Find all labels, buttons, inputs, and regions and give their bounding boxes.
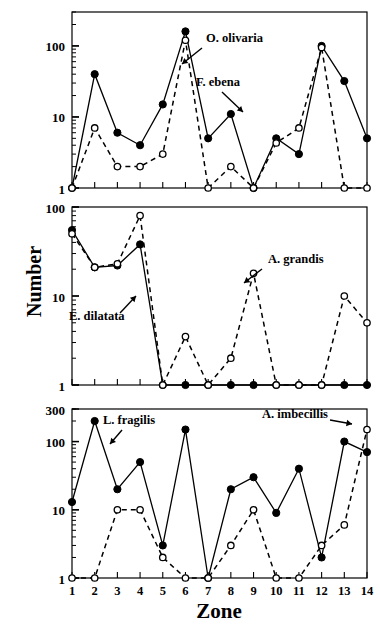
x-tick-label: 7 [205, 584, 211, 598]
series-annotation-label: L. fragilis [103, 413, 155, 427]
data-point-filled [250, 381, 257, 388]
data-point-open [228, 542, 234, 548]
data-point-open [137, 163, 143, 169]
y-tick-label: 100 [46, 201, 66, 216]
y-tick-label: 100 [46, 39, 66, 54]
data-point-filled [114, 129, 121, 136]
data-point-filled [227, 381, 234, 388]
data-point-open [296, 382, 302, 388]
x-tick-label: 1 [69, 584, 75, 598]
x-tick-label: 12 [315, 584, 328, 598]
data-point-filled [136, 241, 143, 248]
x-tick-label: 2 [92, 584, 98, 598]
x-tick-label: 6 [182, 584, 188, 598]
data-point-filled [205, 135, 212, 142]
series-line-a--grandis [72, 216, 367, 385]
data-point-open [137, 507, 143, 513]
data-point-open [228, 355, 234, 361]
data-point-open [364, 320, 370, 326]
x-tick-label: 5 [160, 584, 166, 598]
series-annotation-label: A. imbecillis [262, 407, 328, 421]
data-point-filled [295, 151, 302, 158]
data-point-open [273, 575, 279, 581]
data-point-open [273, 382, 279, 388]
data-point-open [137, 212, 143, 218]
x-tick-label: 13 [338, 584, 351, 598]
data-point-filled [68, 498, 75, 505]
data-point-filled [295, 465, 302, 472]
x-tick-label: 3 [114, 584, 120, 598]
data-point-filled [91, 417, 98, 424]
data-point-filled [363, 381, 370, 388]
data-point-filled [363, 135, 370, 142]
data-point-open [318, 542, 324, 548]
data-point-open [182, 333, 188, 339]
data-point-filled [363, 449, 370, 456]
data-point-open [364, 185, 370, 191]
x-tick-label: 10 [270, 584, 283, 598]
data-point-open [296, 575, 302, 581]
annotation-arrow-head [346, 420, 352, 426]
data-point-filled [136, 458, 143, 465]
data-point-open [318, 44, 324, 50]
y-axis-title: Number [23, 227, 46, 337]
series-annotation-label: A. grandis [268, 252, 324, 266]
data-point-filled [182, 381, 189, 388]
data-point-filled [159, 542, 166, 549]
data-point-filled [273, 509, 280, 516]
x-tick-label: 9 [250, 584, 256, 598]
data-point-open [114, 163, 120, 169]
data-point-open [364, 426, 370, 432]
data-point-open [205, 382, 211, 388]
data-point-open [182, 575, 188, 581]
data-point-open [205, 185, 211, 191]
x-axis-title: Zone [196, 599, 242, 623]
data-point-open [341, 522, 347, 528]
data-point-open [160, 151, 166, 157]
data-point-open [69, 231, 75, 237]
y-tick-label: 10 [52, 503, 65, 518]
data-point-open [341, 185, 347, 191]
data-point-open [114, 507, 120, 513]
y-tick-label: 10 [52, 290, 65, 305]
data-point-filled [227, 486, 234, 493]
data-point-open [91, 125, 97, 131]
data-point-filled [91, 71, 98, 78]
data-point-filled [114, 486, 121, 493]
data-point-filled [136, 142, 143, 149]
x-tick-label: 8 [228, 584, 234, 598]
panel-middle: 110100A. grandisE. dilatata [46, 201, 371, 394]
figure-container: Number 110100O. olivariaF. ebena110100A.… [0, 0, 380, 632]
data-point-filled [341, 77, 348, 84]
panel-bottom: 1101003001234567891011121314L. fragilisA… [46, 403, 375, 599]
data-point-filled [318, 554, 325, 561]
data-point-filled [159, 101, 166, 108]
data-point-filled [341, 381, 348, 388]
plot-frame-middle [72, 207, 367, 385]
data-point-open [250, 507, 256, 513]
data-point-open [91, 575, 97, 581]
data-point-open [182, 37, 188, 43]
y-tick-label: 1 [59, 379, 66, 394]
x-tick-label: 14 [361, 584, 374, 598]
x-tick-label: 4 [137, 584, 144, 598]
data-point-open [318, 382, 324, 388]
data-point-open [160, 382, 166, 388]
y-tick-label: 300 [46, 403, 66, 418]
data-point-filled [250, 474, 257, 481]
data-point-filled [341, 438, 348, 445]
data-point-open [114, 261, 120, 267]
data-point-open [341, 293, 347, 299]
data-point-filled [182, 28, 189, 35]
x-tick-label: 11 [293, 584, 305, 598]
data-point-open [296, 125, 302, 131]
data-point-open [160, 554, 166, 560]
data-point-open [228, 163, 234, 169]
panel-top: 110100O. olivariaF. ebena [46, 12, 371, 197]
data-point-open [205, 575, 211, 581]
y-tick-label: 1 [59, 572, 66, 587]
y-tick-label: 1 [59, 182, 66, 197]
data-point-filled [182, 426, 189, 433]
series-annotation-label: F. ebena [196, 75, 241, 89]
y-tick-label: 10 [52, 110, 65, 125]
